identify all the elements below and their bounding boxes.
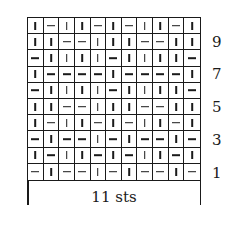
knit-symbol-icon [97, 103, 99, 111]
chart-cell [44, 18, 60, 34]
chart-cell [106, 99, 122, 115]
purl-symbol-icon [125, 25, 133, 27]
purl-symbol-icon [109, 90, 117, 92]
chart-cell [122, 99, 138, 115]
purl-symbol-icon [156, 41, 164, 43]
knit-symbol-icon [50, 38, 52, 46]
purl-symbol-icon [156, 106, 164, 108]
chart-cell [28, 50, 44, 66]
knit-symbol-icon [97, 168, 99, 176]
chart-cell [44, 83, 60, 99]
knit-symbol-icon [191, 38, 193, 46]
purl-symbol-icon [63, 73, 71, 75]
chart-cell [91, 148, 107, 164]
chart-cell [91, 18, 107, 34]
purl-symbol-icon [156, 171, 164, 173]
knit-symbol-icon [35, 70, 37, 78]
knit-symbol-icon [160, 151, 162, 159]
purl-symbol-icon [31, 171, 39, 173]
knit-symbol-icon [113, 70, 115, 78]
chart-cell [91, 164, 107, 180]
purl-symbol-icon [125, 73, 133, 75]
purl-symbol-icon [94, 25, 102, 27]
chart-cell [106, 115, 122, 131]
chart-cell [122, 115, 138, 131]
purl-symbol-icon [109, 138, 117, 140]
purl-symbol-icon [172, 122, 180, 124]
chart-cell [106, 164, 122, 180]
chart-cell [122, 83, 138, 99]
chart-cell [122, 34, 138, 50]
chart-cell [59, 148, 75, 164]
chart-cell [153, 67, 169, 83]
chart-cell [59, 99, 75, 115]
chart-cell [75, 83, 91, 99]
knit-symbol-icon [66, 86, 68, 94]
chart-cell [184, 148, 200, 164]
purl-symbol-icon [141, 171, 149, 173]
purl-symbol-icon [47, 122, 55, 124]
purl-symbol-icon [94, 122, 102, 124]
knit-symbol-icon [128, 86, 130, 94]
chart-cell [184, 99, 200, 115]
knit-symbol-icon [128, 38, 130, 46]
knit-symbol-icon [191, 119, 193, 127]
purl-symbol-icon [78, 73, 86, 75]
purl-symbol-icon [47, 154, 55, 156]
purl-symbol-icon [156, 138, 164, 140]
purl-symbol-icon [63, 138, 71, 140]
knit-symbol-icon [128, 168, 130, 176]
chart-cell [44, 131, 60, 147]
knit-symbol-icon [50, 168, 52, 176]
purl-symbol-icon [47, 25, 55, 27]
purl-symbol-icon [31, 90, 39, 92]
knit-symbol-icon [160, 22, 162, 30]
chart-cell [28, 83, 44, 99]
chart-cell [153, 99, 169, 115]
knit-symbol-icon [81, 54, 83, 62]
knit-symbol-icon [50, 135, 52, 143]
knit-symbol-icon [35, 103, 37, 111]
purl-symbol-icon [78, 41, 86, 43]
chart-cell [44, 99, 60, 115]
purl-symbol-icon [31, 138, 39, 140]
chart-cell [106, 83, 122, 99]
chart-cell [137, 18, 153, 34]
chart-cell [122, 50, 138, 66]
chart-cell [137, 50, 153, 66]
purl-symbol-icon [78, 138, 86, 140]
knit-symbol-icon [50, 103, 52, 111]
row-number: 7 [212, 66, 222, 82]
chart-cell [28, 115, 44, 131]
chart-cell [59, 18, 75, 34]
chart-cell [169, 18, 185, 34]
knit-symbol-icon [97, 38, 99, 46]
purl-symbol-icon [141, 41, 149, 43]
knit-symbol-icon [66, 22, 68, 30]
chart-cell [59, 115, 75, 131]
knit-symbol-icon [144, 22, 146, 30]
repeat-label: 11 sts [27, 188, 201, 206]
knit-symbol-icon [144, 119, 146, 127]
chart-cell [91, 99, 107, 115]
knit-symbol-icon [50, 54, 52, 62]
chart-cell [28, 99, 44, 115]
chart-cell [169, 83, 185, 99]
knit-symbol-icon [81, 119, 83, 127]
row-number: 5 [212, 99, 222, 115]
purl-symbol-icon [188, 138, 196, 140]
purl-symbol-icon [63, 41, 71, 43]
chart-cell [169, 115, 185, 131]
chart-cell [137, 148, 153, 164]
purl-symbol-icon [78, 106, 86, 108]
chart-cell [28, 67, 44, 83]
knit-symbol-icon [160, 54, 162, 62]
purl-symbol-icon [141, 73, 149, 75]
knit-symbol-icon [160, 86, 162, 94]
purl-symbol-icon [156, 73, 164, 75]
chart-cell [169, 50, 185, 66]
chart-cell [184, 34, 200, 50]
purl-symbol-icon [141, 106, 149, 108]
knit-symbol-icon [175, 168, 177, 176]
knit-symbol-icon [160, 119, 162, 127]
